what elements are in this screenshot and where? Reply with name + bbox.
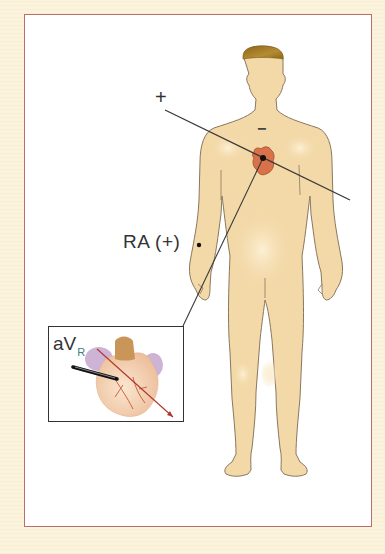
human-figure (189, 46, 342, 476)
positive-pole-label: + (155, 86, 167, 109)
diagram-canvas (0, 0, 385, 554)
heart-center-dot (260, 155, 266, 161)
negative-pole-label: − (257, 120, 266, 138)
hair (243, 46, 283, 59)
ra-electrode-label: RA (+) (123, 231, 180, 253)
avr-inset-box: aVR (48, 326, 184, 422)
anatomical-heart-icon (49, 327, 185, 423)
ra-electrode-dot (197, 243, 201, 247)
